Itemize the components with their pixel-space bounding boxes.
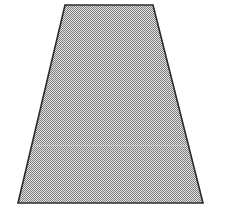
figure-canvas: Isosceles trapezoid with stippled gray f…	[0, 0, 228, 210]
trapezoid-svg	[0, 0, 228, 210]
